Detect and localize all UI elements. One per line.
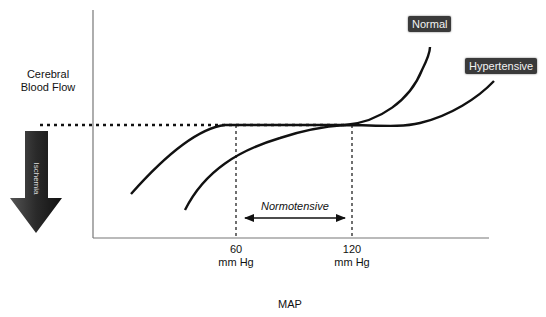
tick-120-value: 120 xyxy=(322,243,382,256)
legend-normal: Normal xyxy=(408,16,451,32)
y-axis-label: Cerebral Blood Flow xyxy=(18,68,78,94)
normotensive-label: Normotensive xyxy=(250,200,340,213)
legend-hypertensive: Hypertensive xyxy=(465,58,537,74)
hypertensive-curve xyxy=(185,81,494,210)
normal-curve xyxy=(131,47,430,194)
tick-60: 60 mm Hg xyxy=(206,243,266,269)
tick-60-value: 60 xyxy=(206,243,266,256)
autoregulation-diagram xyxy=(0,0,546,317)
tick-60-unit: mm Hg xyxy=(206,256,266,269)
ischemia-label: Ischemia xyxy=(30,147,43,211)
tick-120-unit: mm Hg xyxy=(322,256,382,269)
tick-120: 120 mm Hg xyxy=(322,243,382,269)
x-axis-label: MAP xyxy=(265,298,315,311)
